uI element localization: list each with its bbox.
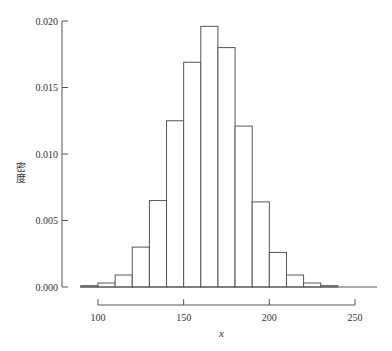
histogram-bar <box>252 202 269 287</box>
histogram-bars <box>81 26 338 287</box>
y-tick-label: 0.010 <box>36 149 59 160</box>
histogram-bar <box>115 275 132 287</box>
histogram-bar <box>218 48 235 287</box>
y-axis: 0.0000.0050.0100.0150.020 <box>36 16 69 293</box>
histogram-bar <box>235 126 252 287</box>
y-tick-label: 0.000 <box>36 282 59 293</box>
histogram-bar <box>132 247 149 287</box>
y-tick-label: 0.015 <box>36 82 59 93</box>
histogram-bar <box>167 121 184 287</box>
histogram-bar <box>201 26 218 287</box>
x-tick-label: 150 <box>176 312 191 323</box>
y-tick-label: 0.005 <box>36 215 59 226</box>
histogram-bar <box>286 275 303 287</box>
x-axis: 100150200250 <box>91 299 363 323</box>
histogram-bar <box>184 62 201 287</box>
y-tick-label: 0.020 <box>36 16 59 27</box>
x-tick-label: 250 <box>348 312 363 323</box>
x-tick-label: 200 <box>262 312 277 323</box>
histogram-bar <box>304 283 321 287</box>
histogram-bar <box>269 252 286 287</box>
x-axis-label: x <box>219 327 224 339</box>
x-tick-label: 100 <box>91 312 106 323</box>
y-axis-label: 密度 <box>14 162 28 184</box>
histogram-chart: 0.0000.0050.0100.0150.020 100150200250 <box>0 0 392 351</box>
histogram-bar <box>98 283 115 287</box>
histogram-bar <box>149 201 166 287</box>
